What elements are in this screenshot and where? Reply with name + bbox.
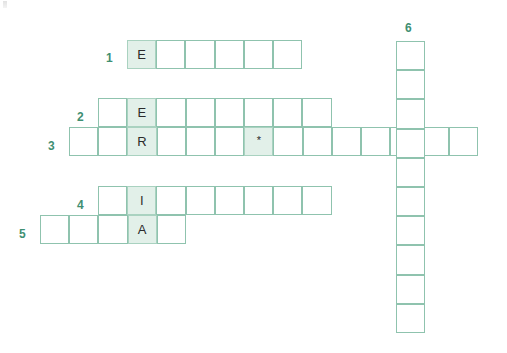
clue-number-1: 1 <box>106 52 113 64</box>
across-3-cell-5[interactable] <box>186 127 215 156</box>
across-2-cell-5[interactable] <box>215 98 244 127</box>
down-6-cell-1[interactable] <box>396 41 425 70</box>
down-6-cell-4[interactable] <box>396 129 425 158</box>
clue-number-6: 6 <box>405 22 412 34</box>
across-2-cell-3[interactable] <box>156 98 185 127</box>
across-3-cell-7[interactable]: * <box>244 127 273 156</box>
across-5-cell-4[interactable]: A <box>128 215 157 244</box>
across-1-cell-5[interactable] <box>244 40 273 69</box>
across-2-cell-8[interactable] <box>302 98 331 127</box>
corner-artifact <box>3 1 7 8</box>
clue-number-3: 3 <box>48 140 55 152</box>
across-1-cell-3[interactable] <box>185 40 214 69</box>
across-5-cell-5[interactable] <box>157 215 186 244</box>
down-6-cell-8[interactable] <box>396 245 425 274</box>
cell-letter: A <box>138 223 147 236</box>
across-2-cell-6[interactable] <box>244 98 273 127</box>
across-4-cell-2[interactable]: I <box>127 186 156 215</box>
cell-letter: E <box>137 48 146 61</box>
across-1-cell-2[interactable] <box>156 40 185 69</box>
across-4-cell-4[interactable] <box>186 186 215 215</box>
crossword-puzzle: EER*IA 123456 <box>0 0 507 353</box>
across-3-cell-8[interactable] <box>273 127 302 156</box>
across-3-cell-3[interactable]: R <box>127 127 156 156</box>
star-marker: * <box>257 135 261 146</box>
cell-letter: R <box>137 135 146 148</box>
across-3-cell-11[interactable] <box>361 127 390 156</box>
down-6-cell-7[interactable] <box>396 216 425 245</box>
across-1-cell-1[interactable]: E <box>127 40 156 69</box>
across-2-cell-2[interactable]: E <box>127 98 156 127</box>
across-5-cell-1[interactable] <box>40 215 69 244</box>
across-1-cell-4[interactable] <box>215 40 244 69</box>
across-4-cell-3[interactable] <box>156 186 185 215</box>
across-3-cell-14[interactable] <box>449 127 478 156</box>
down-6-cell-2[interactable] <box>396 70 425 99</box>
across-2-cell-7[interactable] <box>273 98 302 127</box>
across-4-cell-1[interactable] <box>98 186 127 215</box>
across-4-cell-8[interactable] <box>302 186 331 215</box>
clue-number-5: 5 <box>19 228 26 240</box>
cell-letter: I <box>140 194 144 207</box>
down-6-cell-3[interactable] <box>396 99 425 128</box>
clue-number-2: 2 <box>77 111 84 123</box>
across-4-cell-6[interactable] <box>244 186 273 215</box>
down-6-cell-10[interactable] <box>396 304 425 333</box>
across-2-cell-4[interactable] <box>186 98 215 127</box>
across-3-cell-10[interactable] <box>332 127 361 156</box>
across-3-cell-6[interactable] <box>215 127 244 156</box>
across-3-cell-9[interactable] <box>303 127 332 156</box>
across-2-cell-1[interactable] <box>98 98 127 127</box>
across-3-cell-4[interactable] <box>157 127 186 156</box>
down-6-cell-6[interactable] <box>396 187 425 216</box>
clue-number-4: 4 <box>77 199 84 211</box>
across-5-cell-2[interactable] <box>69 215 98 244</box>
across-4-cell-7[interactable] <box>273 186 302 215</box>
down-6-cell-9[interactable] <box>396 275 425 304</box>
across-3-cell-1[interactable] <box>69 127 98 156</box>
across-4-cell-5[interactable] <box>215 186 244 215</box>
across-5-cell-3[interactable] <box>98 215 127 244</box>
across-3-cell-2[interactable] <box>98 127 127 156</box>
cell-letter: E <box>137 106 146 119</box>
down-6-cell-5[interactable] <box>396 158 425 187</box>
across-1-cell-6[interactable] <box>273 40 302 69</box>
